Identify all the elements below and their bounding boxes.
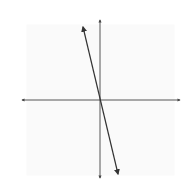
function-graph (0, 0, 188, 190)
